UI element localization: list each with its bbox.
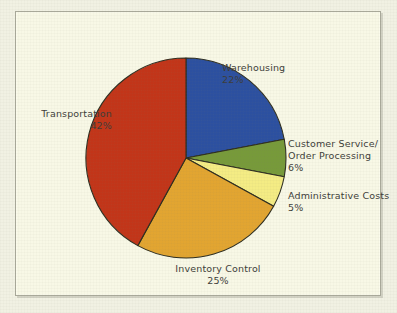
slice-label-customer-service-pct: 6% <box>288 162 394 174</box>
slice-label-warehousing-pct: 22% <box>222 74 342 86</box>
slice-label-customer-service-line1: Customer Service/ <box>288 138 378 149</box>
slice-label-warehousing: Warehousing 22% <box>222 62 342 86</box>
slice-label-administrative-costs-name: Administrative Costs <box>288 190 389 201</box>
slice-label-inventory-control-pct: 25% <box>148 275 288 287</box>
screenshot-canvas: Transportation 42% Warehousing 22% Custo… <box>0 0 397 313</box>
slice-label-inventory-control-name: Inventory Control <box>175 263 260 274</box>
slice-label-warehousing-name: Warehousing <box>222 62 285 73</box>
slice-label-transportation: Transportation 42% <box>8 108 112 132</box>
slice-label-transportation-pct: 42% <box>8 120 112 132</box>
slice-label-administrative-costs: Administrative Costs 5% <box>288 190 394 214</box>
slice-label-customer-service: Customer Service/ Order Processing 6% <box>288 138 394 175</box>
slice-label-inventory-control: Inventory Control 25% <box>148 263 288 287</box>
slice-label-customer-service-line2: Order Processing <box>288 150 394 162</box>
slice-label-administrative-costs-pct: 5% <box>288 202 394 214</box>
slice-label-transportation-name: Transportation <box>41 108 112 119</box>
